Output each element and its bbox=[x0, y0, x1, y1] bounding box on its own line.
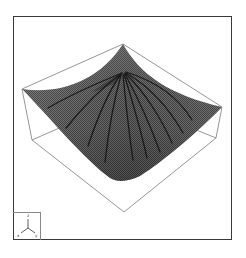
axis-label-x: x bbox=[17, 234, 19, 238]
surface-mesh bbox=[22, 44, 222, 181]
axis-triad-box: z x y bbox=[13, 212, 41, 240]
axis-label-y: y bbox=[35, 234, 37, 238]
axis-label-z: z bbox=[27, 214, 29, 218]
